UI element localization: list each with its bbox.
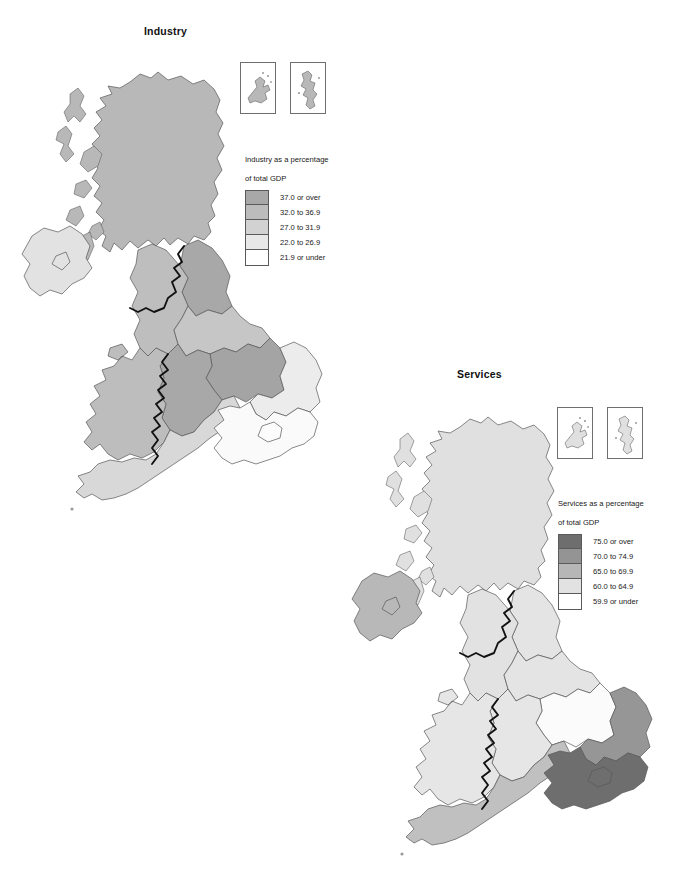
legend-label-1: 75.0 or over: [593, 537, 634, 546]
services-map-title: Services: [457, 368, 502, 380]
legend-label-4: 60.0 to 64.9: [593, 582, 633, 591]
legend-row[interactable]: 37.0 or over: [245, 190, 357, 205]
services-legend-title: Services as a percentage of total GDP: [558, 490, 676, 528]
isles-of-scilly-marker: [70, 507, 73, 510]
legend-swatch-1: [558, 534, 582, 549]
legend-swatch-1: [245, 190, 269, 205]
legend-label-3: 65.0 to 69.9: [593, 567, 633, 576]
legend-swatch-5: [245, 250, 269, 265]
industry-orkney-inset: [240, 62, 276, 114]
region-northern-ireland[interactable]: [352, 571, 422, 641]
industry-legend-title: Industry as a percentage of total GDP: [245, 146, 357, 184]
services-legend: Services as a percentage of total GDP 75…: [558, 490, 676, 610]
industry-shetland-inset: [290, 62, 326, 114]
legend-row[interactable]: 27.0 to 31.9: [245, 220, 357, 235]
orkney-islands-shape: [248, 77, 270, 103]
industry-map-panel: Industry: [0, 0, 360, 540]
isles-of-scilly-marker: [400, 852, 403, 855]
region-scotland[interactable]: [91, 72, 224, 252]
region-hebrides-south[interactable]: [56, 126, 74, 162]
legend-swatch-5: [558, 594, 582, 609]
services-legend-rows: 75.0 or over 70.0 to 74.9 65.0 to 69.9 6…: [558, 534, 676, 610]
region-islay-jura[interactable]: [66, 206, 84, 226]
legend-label-2: 32.0 to 36.9: [280, 208, 320, 217]
region-mull[interactable]: [74, 180, 92, 198]
services-shetland-inset: [607, 407, 643, 459]
region-hebrides-south[interactable]: [386, 471, 404, 507]
shetland-islands-shape: [618, 416, 634, 454]
legend-row[interactable]: 70.0 to 74.9: [558, 549, 676, 564]
region-scotland[interactable]: [421, 417, 554, 597]
legend-row[interactable]: 60.0 to 64.9: [558, 579, 676, 594]
legend-label-5: 21.9 or under: [280, 253, 325, 262]
region-mull[interactable]: [404, 525, 422, 543]
region-islay-jura[interactable]: [396, 551, 414, 571]
industry-map-graphic: [18, 60, 338, 530]
services-map-panel: Services: [330, 350, 679, 890]
legend-row[interactable]: 22.0 to 26.9: [245, 235, 357, 250]
region-northern-ireland[interactable]: [22, 226, 92, 296]
legend-label-5: 59.9 or under: [593, 597, 638, 606]
legend-row[interactable]: 59.9 or under: [558, 594, 676, 609]
legend-swatch-2: [245, 205, 269, 220]
legend-label-2: 70.0 to 74.9: [593, 552, 633, 561]
region-outer-hebrides[interactable]: [64, 88, 86, 122]
legend-swatch-3: [558, 564, 582, 579]
orkney-islands-shape: [565, 422, 587, 448]
legend-row[interactable]: 65.0 to 69.9: [558, 564, 676, 579]
legend-row[interactable]: 21.9 or under: [245, 250, 357, 265]
legend-row[interactable]: 75.0 or over: [558, 534, 676, 549]
legend-label-4: 22.0 to 26.9: [280, 238, 320, 247]
legend-label-1: 37.0 or over: [280, 193, 321, 202]
legend-swatch-3: [245, 220, 269, 235]
industry-legend: Industry as a percentage of total GDP 37…: [245, 146, 357, 266]
services-orkney-inset: [557, 407, 593, 459]
industry-legend-rows: 37.0 or over 32.0 to 36.9 27.0 to 31.9 2…: [245, 190, 357, 266]
legend-swatch-4: [558, 579, 582, 594]
services-map-graphic: [348, 405, 668, 875]
legend-swatch-4: [245, 235, 269, 250]
legend-label-3: 27.0 to 31.9: [280, 223, 320, 232]
shetland-islands-shape: [301, 71, 317, 109]
legend-swatch-2: [558, 549, 582, 564]
legend-row[interactable]: 32.0 to 36.9: [245, 205, 357, 220]
region-outer-hebrides[interactable]: [394, 433, 416, 467]
industry-map-title: Industry: [144, 25, 187, 37]
